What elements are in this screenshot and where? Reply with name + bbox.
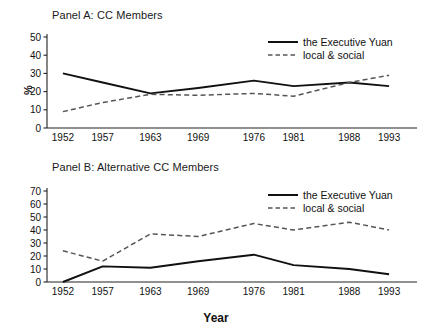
x-tick-label: 1981 bbox=[282, 132, 305, 143]
y-tick-label: 10 bbox=[30, 104, 42, 115]
x-axis-title: Year bbox=[0, 311, 432, 325]
x-tick-label: 1988 bbox=[338, 132, 361, 143]
x-tick-label: 1969 bbox=[187, 132, 210, 143]
x-tick-label: 1993 bbox=[378, 132, 401, 143]
y-tick-label: 30 bbox=[30, 68, 42, 79]
x-tick-label: 1957 bbox=[92, 132, 115, 143]
y-tick-label: 20 bbox=[30, 251, 42, 262]
y-tick-label: 10 bbox=[30, 264, 42, 275]
series-line-executive-yuan bbox=[63, 73, 389, 93]
y-tick-label: 40 bbox=[30, 225, 42, 236]
panel-b: Panel B: Alternative CC Members 01020304… bbox=[0, 155, 432, 333]
x-tick-label: 1988 bbox=[338, 286, 361, 297]
legend-label-local-social: local & social bbox=[303, 49, 364, 61]
y-tick-label: 70 bbox=[30, 186, 42, 197]
x-tick-label: 1963 bbox=[139, 132, 162, 143]
x-tick-label: 1969 bbox=[187, 286, 210, 297]
x-tick-label: 1952 bbox=[52, 286, 75, 297]
x-tick-label: 1976 bbox=[243, 286, 266, 297]
x-tick-label: 1976 bbox=[243, 132, 266, 143]
panel-a-plot-area: 0102030405019521957196319691976198119881… bbox=[0, 0, 432, 160]
y-tick-label: 20 bbox=[30, 86, 42, 97]
panel-a-svg: 0102030405019521957196319691976198119881… bbox=[0, 0, 432, 160]
panel-a: Panel A: CC Members % 010203040501952195… bbox=[0, 0, 432, 160]
y-tick-label: 60 bbox=[30, 199, 42, 210]
legend-label-executive-yuan: the Executive Yuan bbox=[303, 36, 393, 48]
y-tick-label: 30 bbox=[30, 238, 42, 249]
y-tick-label: 40 bbox=[30, 50, 42, 61]
panel-b-svg: 0102030405060701952195719631969197619811… bbox=[0, 155, 432, 333]
x-tick-label: 1963 bbox=[139, 286, 162, 297]
series-line-local-social bbox=[63, 75, 389, 111]
legend-label-local-social: local & social bbox=[303, 202, 364, 214]
y-tick-label: 0 bbox=[35, 277, 41, 288]
legend-label-executive-yuan: the Executive Yuan bbox=[303, 189, 393, 201]
y-tick-label: 50 bbox=[30, 212, 42, 223]
series-line-local-social bbox=[63, 222, 389, 261]
x-tick-label: 1993 bbox=[378, 286, 401, 297]
x-tick-label: 1952 bbox=[52, 132, 75, 143]
y-tick-label: 0 bbox=[35, 123, 41, 134]
x-tick-label: 1981 bbox=[282, 286, 305, 297]
panel-b-plot-area: 0102030405060701952195719631969197619811… bbox=[0, 155, 432, 333]
x-tick-label: 1957 bbox=[92, 286, 115, 297]
series-line-executive-yuan bbox=[63, 255, 389, 282]
y-tick-label: 50 bbox=[30, 32, 42, 43]
